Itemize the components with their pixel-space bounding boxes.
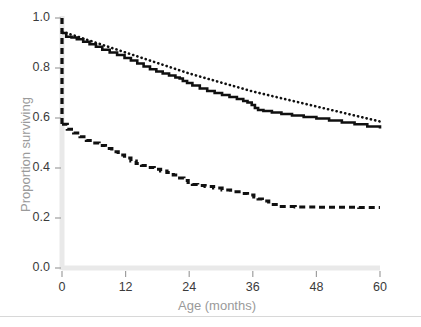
series-layer bbox=[62, 18, 380, 208]
y-axis-title: Proportion surviving bbox=[18, 97, 33, 212]
footer-divider bbox=[0, 316, 421, 317]
upper-expected-curve-dotted bbox=[62, 32, 380, 122]
x-axis-title: Age (months) bbox=[178, 298, 256, 313]
xtick-label-5: 48 bbox=[296, 280, 336, 294]
ytick-label-6: 0.0 bbox=[8, 260, 50, 274]
ytick-label-5: 0.2 bbox=[8, 210, 50, 224]
upper-survival-curve-solid bbox=[62, 33, 380, 129]
ytick-label-1: 1.0 bbox=[8, 10, 50, 24]
xtick-label-3: 24 bbox=[169, 280, 209, 294]
xtick-label-2: 12 bbox=[106, 280, 146, 294]
xtick-label-4: 36 bbox=[233, 280, 273, 294]
x-tick-marks bbox=[62, 271, 380, 277]
kaplan-meier-survival-chart: 1.0 0.8 0.6 0.4 0.2 0.0 0 12 24 36 48 60… bbox=[0, 0, 421, 327]
xtick-label-1: 0 bbox=[42, 280, 82, 294]
ytick-label-2: 0.8 bbox=[8, 60, 50, 74]
xtick-label-6: 60 bbox=[360, 280, 400, 294]
lower-survival-curve-dashed bbox=[62, 124, 380, 207]
chart-plot-area bbox=[0, 0, 421, 327]
